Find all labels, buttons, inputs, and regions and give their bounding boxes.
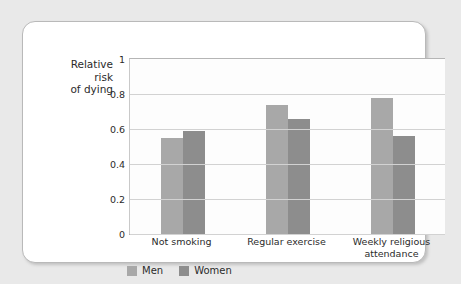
y-tick-label: 0.2 — [110, 194, 125, 205]
legend-item-women[interactable]: Women — [179, 265, 232, 276]
figure-root: Relative risk of dying 00.20.40.60.81 No… — [0, 0, 461, 284]
legend-swatch-icon — [179, 266, 189, 276]
gridline — [130, 94, 445, 95]
chart-card: Relative risk of dying 00.20.40.60.81 No… — [22, 21, 426, 263]
bar-groups — [130, 59, 445, 234]
y-tick-label: 0.6 — [110, 124, 125, 135]
legend-label: Women — [194, 265, 232, 276]
chart-legend: MenWomen — [127, 265, 232, 276]
y-tick-label: 0.8 — [110, 89, 125, 100]
bar-women — [183, 131, 205, 234]
y-axis-title: Relative risk of dying — [39, 58, 113, 96]
bar-men — [161, 138, 183, 234]
gridline — [130, 234, 445, 235]
legend-swatch-icon — [127, 266, 137, 276]
bar-group — [235, 59, 340, 234]
bar-men — [371, 98, 393, 235]
legend-label: Men — [142, 265, 163, 276]
plot-area: 00.20.40.60.81 — [129, 58, 445, 234]
bar-group — [340, 59, 445, 234]
category-labels: Not smokingRegular exerciseWeekly religi… — [129, 236, 444, 259]
category-label: Regular exercise — [234, 236, 339, 259]
y-tick-label: 1 — [119, 54, 125, 65]
legend-item-men[interactable]: Men — [127, 265, 163, 276]
gridline — [130, 129, 445, 130]
bar-group — [130, 59, 235, 234]
gridline — [130, 199, 445, 200]
y-tick-label: 0.4 — [110, 159, 125, 170]
bar-women — [393, 136, 415, 234]
plot-inner: 00.20.40.60.81 — [130, 59, 445, 234]
y-tick-label: 0 — [119, 229, 125, 240]
bar-women — [288, 119, 310, 235]
category-label: Weekly religious attendance — [339, 236, 444, 259]
category-label: Not smoking — [129, 236, 234, 259]
bar-men — [266, 105, 288, 235]
gridline — [130, 164, 445, 165]
